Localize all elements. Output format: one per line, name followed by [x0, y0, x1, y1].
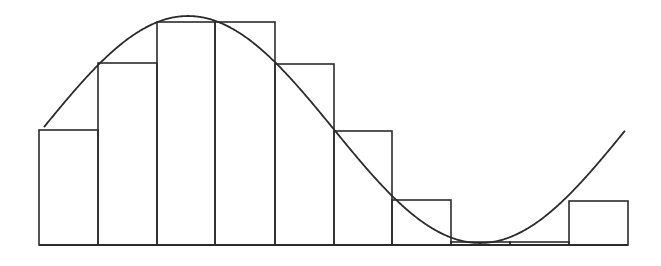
- rectangles-group: [39, 22, 628, 245]
- rectangle-bar: [215, 22, 275, 245]
- rectangle-bar: [275, 64, 334, 245]
- riemann-sum-diagram: [0, 0, 661, 266]
- rectangle-bar: [392, 200, 451, 245]
- diagram-svg: [0, 0, 661, 266]
- rectangle-bar: [569, 201, 628, 245]
- rectangle-bar: [98, 63, 157, 245]
- rectangle-bar: [39, 130, 98, 245]
- rectangle-bar: [157, 22, 215, 245]
